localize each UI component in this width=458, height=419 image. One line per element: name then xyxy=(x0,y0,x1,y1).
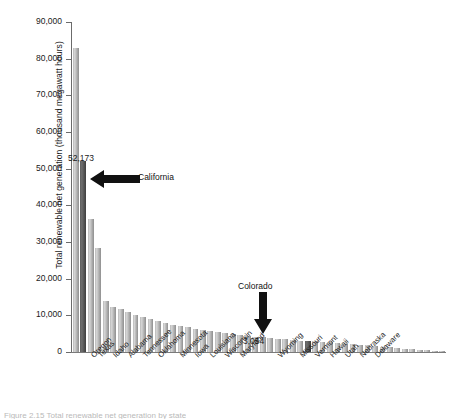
y-axis-tick: 20,000 xyxy=(66,279,71,280)
bar-california xyxy=(80,161,86,352)
bar-illinois xyxy=(267,338,273,352)
bar-massachusetts xyxy=(417,350,423,352)
california-arrow-icon xyxy=(90,168,140,190)
y-axis-tick: 30,000 xyxy=(66,242,71,243)
figure-caption: Figure 2.15 Total renewable net generati… xyxy=(4,411,186,419)
bar-alaska xyxy=(424,350,430,352)
bar-connecticut xyxy=(409,349,415,352)
y-axis-tick-label: 20,000 xyxy=(36,273,62,283)
colorado-annotation-label: Colorado xyxy=(238,281,273,291)
x-axis-tick-labels: OregonTexasIdahoAlabamaTennesseeOklahoma… xyxy=(71,353,451,413)
y-axis-tick-label: 50,000 xyxy=(36,163,62,173)
y-axis-tick: 90,000 xyxy=(66,22,71,23)
y-axis-tick-label: 0 xyxy=(57,346,62,356)
y-axis-tick-label: 70,000 xyxy=(36,89,62,99)
y-axis-tick-label: 40,000 xyxy=(36,199,62,209)
bar-ohio xyxy=(394,348,400,352)
y-axis-tick: 10,000 xyxy=(66,315,71,316)
y-axis-tick-label: 30,000 xyxy=(36,236,62,246)
california-annotation-label: California xyxy=(138,172,174,182)
bar-mississippi xyxy=(432,351,438,352)
california-value-label: 52,173 xyxy=(68,153,94,163)
colorado-arrow-icon xyxy=(253,292,273,334)
bar-texas xyxy=(95,248,101,353)
y-axis-tick: 70,000 xyxy=(66,95,71,96)
bar-washington xyxy=(73,48,79,352)
y-axis-tick: 60,000 xyxy=(66,132,71,133)
y-axis-tick-label: 90,000 xyxy=(36,16,62,26)
y-axis-tick-label: 80,000 xyxy=(36,53,62,63)
bar-rhode-island xyxy=(439,351,445,352)
y-axis-tick: 80,000 xyxy=(66,59,71,60)
bar-new-jersey xyxy=(402,349,408,352)
y-axis-tick-label: 60,000 xyxy=(36,126,62,136)
chart-figure: Total renewable net generation (thousand… xyxy=(0,0,458,419)
y-axis-tick: 40,000 xyxy=(66,205,71,206)
y-axis-tick: 50,000 xyxy=(66,169,71,170)
bar-oregon xyxy=(88,219,94,352)
y-axis-tick-label: 10,000 xyxy=(36,309,62,319)
